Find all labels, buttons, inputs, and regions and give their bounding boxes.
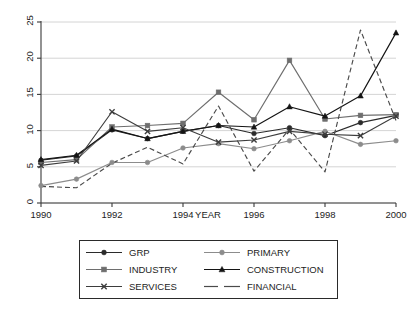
primary-marker — [394, 138, 399, 143]
x-tick-label-1992: 1992 — [95, 209, 129, 220]
primary-marker — [74, 177, 79, 182]
legend-label-industry: INDUSTRY — [129, 264, 177, 275]
legend-marker-construction-icon — [202, 264, 242, 275]
industry-marker — [358, 113, 363, 118]
primary-marker — [110, 160, 115, 165]
series-line-primary — [41, 131, 396, 185]
industry-marker — [287, 58, 292, 63]
series-line-financial — [41, 30, 396, 188]
primary-marker — [39, 183, 44, 188]
construction-marker — [358, 93, 364, 98]
series-line-construction — [41, 33, 396, 160]
chart-container: 0510152025 199019921994199619982000 YEAR… — [0, 0, 417, 309]
y-tick-label-5: 5 — [24, 156, 35, 174]
legend-item-industry[interactable]: INDUSTRY — [84, 261, 202, 278]
y-tick-label-10: 10 — [24, 120, 35, 138]
y-tick-label-20: 20 — [24, 48, 35, 66]
construction-marker — [287, 104, 293, 109]
legend-marker-services-icon — [84, 281, 124, 292]
industry-marker — [145, 123, 150, 128]
series-line-industry — [41, 60, 396, 162]
y-tick-label-0: 0 — [24, 193, 35, 211]
grp-marker — [358, 120, 363, 125]
grp-marker — [252, 131, 257, 136]
legend-label-primary: PRIMARY — [247, 247, 290, 258]
legend-marker-industry-icon — [84, 264, 124, 275]
legend-item-services[interactable]: SERVICES — [84, 278, 202, 295]
x-axis-title: YEAR — [168, 209, 248, 220]
legend-label-services: SERVICES — [129, 281, 177, 292]
primary-marker — [145, 160, 150, 165]
legend-marker-financial-icon — [202, 281, 242, 292]
legend-marker-grp-icon — [84, 247, 124, 258]
primary-marker — [252, 146, 257, 151]
legend-label-construction: CONSTRUCTION — [247, 264, 324, 275]
primary-marker — [287, 138, 292, 143]
legend-marker-primary-icon — [202, 247, 242, 258]
legend-item-primary[interactable]: PRIMARY — [202, 244, 343, 261]
primary-marker — [358, 142, 363, 147]
industry-marker — [252, 117, 257, 122]
legend-label-grp: GRP — [129, 247, 150, 258]
y-tick-label-25: 25 — [24, 12, 35, 30]
x-tick-label-1990: 1990 — [24, 209, 58, 220]
x-tick-label-2000: 2000 — [379, 209, 413, 220]
industry-marker — [216, 90, 221, 95]
x-tick-label-1998: 1998 — [308, 209, 342, 220]
industry-marker — [181, 121, 186, 126]
legend-label-financial: FINANCIAL — [247, 281, 297, 292]
primary-marker — [181, 146, 186, 151]
legend-item-grp[interactable]: GRP — [84, 244, 202, 261]
y-tick-label-15: 15 — [24, 84, 35, 102]
series-line-services — [41, 112, 396, 166]
construction-marker — [393, 30, 399, 35]
legend-item-construction[interactable]: CONSTRUCTION — [202, 261, 343, 278]
legend-item-financial[interactable]: FINANCIAL — [202, 278, 343, 295]
chart-legend: GRPPRIMARYINDUSTRYCONSTRUCTIONSERVICESFI… — [79, 240, 338, 299]
